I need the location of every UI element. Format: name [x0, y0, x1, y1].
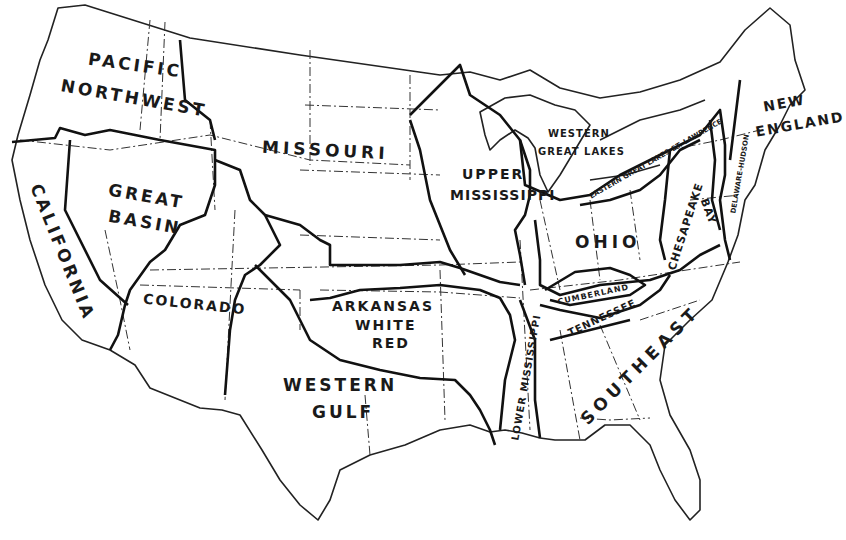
label-gulf: GULF [312, 402, 374, 422]
us-outline [12, 5, 805, 520]
label-western-great-lakes-1: WESTERN [548, 128, 610, 139]
label-white: WHITE [355, 317, 416, 333]
label-western-great-lakes-2: GREAT LAKES [538, 146, 625, 157]
label-arkansas: ARKANSAS [332, 298, 434, 314]
label-mississippi: MISSISSIPPI [450, 187, 555, 203]
label-ohio: OHIO [575, 232, 640, 252]
label-red: RED [372, 335, 410, 351]
label-upper: UPPER [462, 166, 524, 182]
label-western: WESTERN [283, 375, 397, 395]
